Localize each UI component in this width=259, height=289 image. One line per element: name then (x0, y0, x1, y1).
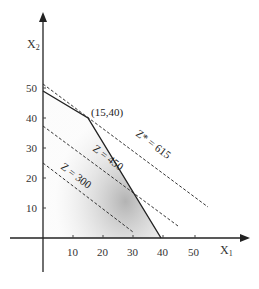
x-axis-arrow-icon (240, 234, 250, 242)
y-axis-label-main: X (27, 37, 36, 51)
x-axis-label-sub: 1 (229, 249, 233, 258)
x-tick-label: 10 (67, 246, 79, 258)
linear-programming-chart: 10 20 30 40 50 10 20 30 40 50 X2 X1 (15,… (0, 0, 259, 289)
y-axis-label-sub: 2 (36, 43, 40, 52)
x-tick-label: 30 (127, 246, 139, 258)
y-tick-label: 30 (26, 142, 38, 154)
y-tick-label: 40 (26, 112, 38, 124)
y-tick-label: 10 (26, 202, 38, 214)
x-tick-label: 40 (157, 246, 169, 258)
y-axis-arrow-icon (39, 12, 47, 22)
y-tick-label: 20 (26, 172, 38, 184)
y-axis-label: X2 (27, 37, 40, 52)
x-tick-label: 20 (97, 246, 109, 258)
x-axis-label: X1 (220, 243, 233, 258)
y-tick-label: 50 (26, 82, 38, 94)
x-tick-label: 50 (188, 246, 200, 258)
x-axis-label-main: X (220, 243, 229, 257)
optimal-point-label: (15,40) (91, 106, 123, 119)
